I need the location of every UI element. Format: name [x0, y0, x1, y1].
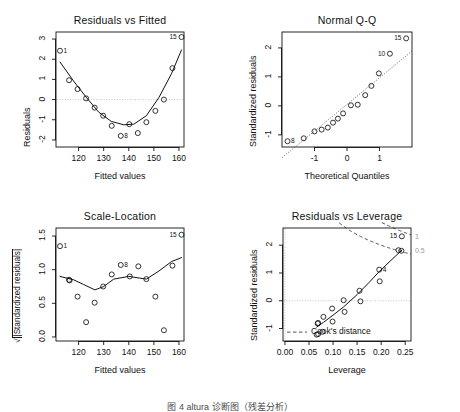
ytick-label: 1 [264, 262, 274, 282]
ytick-label: 0 [37, 89, 47, 109]
yaxis-label-text: |Standardized residuals| [12, 249, 22, 339]
ytick-label: 2 [263, 37, 273, 57]
ytick-label: -1 [264, 318, 274, 338]
ytick-label: 1 [263, 66, 273, 86]
xaxis-label-scale-location: Fitted values [16, 365, 224, 375]
yaxis-label-normal-qq: Standardized residuals [248, 55, 258, 147]
xaxis-label-residuals-vs-fitted: Fitted values [16, 171, 224, 181]
xaxis-label-residuals-vs-leverage: Leverage [243, 365, 451, 375]
ytick-label: -2 [37, 129, 47, 149]
cook-level-label: 1 [415, 233, 419, 240]
xtick-label: 0.25 [385, 347, 425, 357]
xaxis-label-normal-qq: Theoretical Quantiles [242, 171, 452, 181]
point-label: 15 [169, 231, 176, 238]
point-label: 10 [378, 50, 385, 57]
point-label: 1 [64, 242, 68, 249]
ytick-label: 1.0 [37, 259, 47, 279]
point-label: 4 [383, 266, 387, 273]
ytick-label: 1.5 [37, 225, 47, 245]
point-label: 15 [169, 33, 176, 40]
ytick-label: -1 [263, 124, 273, 144]
point-label: 1 [64, 47, 68, 54]
yaxis-label-residuals-vs-fitted: Residuals [22, 107, 32, 147]
cook-level-label: 0.5 [415, 247, 425, 254]
ytick-label: 0 [263, 95, 273, 115]
ytick-label: 0 [264, 290, 274, 310]
point-label: 8 [124, 132, 128, 139]
ytick-label: 2 [37, 48, 47, 68]
cooks-distance-legend: Cook's distance [311, 326, 371, 336]
yaxis-label-scale-location: √|Standardized residuals| [12, 249, 22, 343]
ytick-label: -1 [37, 109, 47, 129]
panel-title-residuals-vs-leverage: Residuals vs Leverage [203, 210, 460, 222]
ytick-label: 0.5 [37, 292, 47, 312]
figure-caption: 图 4 altura 诊断图（残差分析） [0, 400, 460, 412]
point-label: 8 [124, 261, 128, 268]
ytick-label: 1 [37, 68, 47, 88]
point-label: 15 [390, 232, 397, 239]
xtick-label: 160 [159, 347, 199, 357]
point-label: 15 [394, 34, 401, 41]
xtick-label: 160 [159, 153, 199, 163]
panel-title-normal-qq: Normal Q-Q [202, 14, 460, 26]
ytick-label: 0.0 [37, 326, 47, 346]
point-label: 8 [291, 137, 295, 144]
ytick-label: 2 [264, 234, 274, 254]
xtick-label: 1 [360, 153, 400, 163]
ytick-label: 3 [37, 28, 47, 48]
sqrt-icon: √ [13, 339, 22, 344]
figure-canvas: Residuals vs Fitted181512013014015016032… [0, 0, 460, 412]
yaxis-label-residuals-vs-leverage: Standardized residuals [249, 249, 259, 341]
